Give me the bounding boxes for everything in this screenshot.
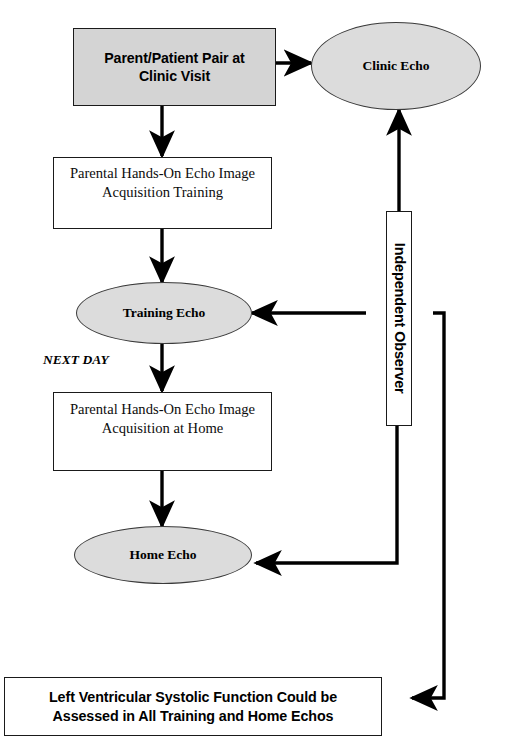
- node-home-echo-label: Home Echo: [129, 547, 196, 563]
- annotation-next-day: NEXT DAY: [43, 352, 109, 368]
- node-independent-observer[interactable]: Independent Observer: [386, 211, 412, 426]
- node-home-echo[interactable]: Home Echo: [74, 526, 252, 584]
- node-training-echo-label: Training Echo: [123, 305, 206, 321]
- node-independent-observer-label: Independent Observer: [390, 243, 408, 394]
- node-clinic-visit-line-2: Clinic Visit: [104, 67, 245, 85]
- node-home-acquisition[interactable]: Parental Hands-On Echo Image Acquisition…: [53, 392, 272, 471]
- node-clinic-visit-line-1: Parent/Patient Pair at: [104, 49, 245, 67]
- node-training-acquisition[interactable]: Parental Hands-On Echo Image Acquisition…: [53, 157, 272, 229]
- node-training-echo[interactable]: Training Echo: [76, 282, 252, 344]
- edge-layer: [0, 0, 506, 750]
- node-home-acquisition-line-2: Acquisition at Home: [70, 419, 255, 438]
- node-home-acquisition-line-1: Parental Hands-On Echo Image: [70, 400, 255, 419]
- edge-observer-to-outcome: [412, 313, 444, 698]
- edge-observer-to-homeecho: [256, 426, 397, 563]
- node-clinic-visit[interactable]: Parent/Patient Pair at Clinic Visit: [73, 28, 276, 106]
- node-training-acquisition-line-1: Parental Hands-On Echo Image: [70, 164, 255, 183]
- annotation-next-day-label: NEXT DAY: [43, 352, 109, 367]
- node-outcome-line-1: Left Ventricular Systolic Function Could…: [49, 688, 337, 706]
- node-training-acquisition-line-2: Acquisition Training: [70, 183, 255, 202]
- node-outcome[interactable]: Left Ventricular Systolic Function Could…: [4, 677, 382, 736]
- flowchart-canvas: Parent/Patient Pair at Clinic Visit Clin…: [0, 0, 506, 750]
- node-outcome-line-2: Assessed in All Training and Home Echos: [49, 707, 337, 725]
- node-clinic-echo-label: Clinic Echo: [362, 58, 429, 74]
- node-clinic-echo[interactable]: Clinic Echo: [311, 22, 481, 110]
